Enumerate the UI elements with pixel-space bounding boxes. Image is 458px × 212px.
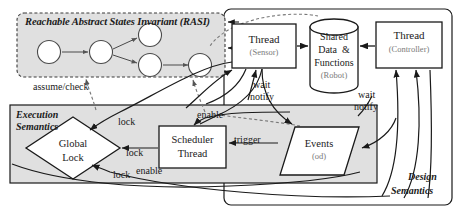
execution-semantics-label-line1: Execution (16, 110, 58, 121)
rasi-title: Reachable Abstract States Invariant (RAS… (25, 16, 210, 27)
design-semantics-label-line2: Semantics (391, 186, 433, 197)
wait-label-controller: wait (358, 90, 375, 101)
shared-data-sublabel: (Robot) (308, 71, 360, 80)
diagram-canvas: Reachable Abstract States Invariant (RAS… (0, 0, 458, 212)
node-scheduler-thread (159, 126, 226, 168)
notify-label-controller: notify (354, 102, 378, 113)
state-node (38, 41, 61, 64)
scheduler-thread-label-line2: Thread (160, 148, 225, 159)
design-semantics-label-line1: Design (408, 172, 437, 183)
enable-label-top: enable (197, 110, 223, 121)
global-lock-label-line1: Global (46, 138, 100, 149)
lock-label-mid: lock (126, 148, 143, 159)
state-node (139, 54, 162, 77)
events-sublabel: (od) (292, 152, 346, 161)
assume-check-label: assume/check (33, 82, 89, 93)
lock-label-top: lock (118, 117, 135, 128)
shared-data-label-line3: Functions (306, 58, 362, 69)
global-lock-label-line2: Lock (46, 152, 100, 163)
state-node (189, 54, 212, 77)
thread-controller-label: Thread (378, 30, 440, 42)
node-thread-sensor (232, 24, 296, 68)
scheduler-thread-label-line1: Scheduler (160, 134, 225, 145)
shared-data-label-line2: Data & (308, 45, 360, 56)
events-label: Events (292, 138, 346, 149)
trigger-label: trigger (234, 135, 261, 146)
state-node (90, 41, 113, 64)
shared-data-label-line1: Shared (308, 32, 360, 43)
notify-label-sensor: notify (250, 92, 274, 103)
execution-semantics-label-line2: Semantics (16, 122, 58, 133)
thread-controller-sublabel: (Controller) (378, 45, 440, 54)
enable-label-bottom: enable (136, 166, 162, 177)
lock-label-bottom: lock (113, 170, 130, 181)
wait-label-sensor: wait (253, 80, 270, 91)
thread-sensor-sublabel: (Sensor) (238, 48, 290, 57)
thread-sensor-label: Thread (238, 34, 290, 46)
